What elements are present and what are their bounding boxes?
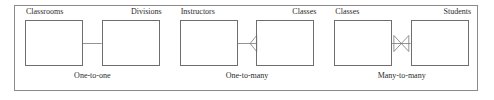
entity-label-left: Classes (335, 7, 359, 17)
connector-line-plain-crowsfoot (238, 20, 257, 66)
entity-label-left: Classrooms (26, 7, 63, 17)
entity-box-left (25, 20, 83, 66)
connector-one-to-one (83, 20, 102, 66)
connector-one-to-many (238, 20, 257, 66)
relationship-group-many-to-many: Classes Students (324, 6, 479, 92)
crows-foot-icon-left (394, 36, 401, 52)
entity-box-right (256, 20, 314, 66)
diagram-frame: Classrooms Divisions One-to-one Instruct… (14, 5, 478, 91)
connector-line-plain-plain (83, 20, 102, 66)
entity-box-right (102, 20, 160, 66)
connector-line-crowsfoot-crowsfoot (392, 20, 411, 66)
entity-label-right: Students (443, 7, 471, 17)
cardinality-caption: Many-to-many (324, 70, 479, 81)
er-cardinality-diagram: Classrooms Divisions One-to-one Instruct… (0, 0, 494, 100)
entity-label-right: Divisions (131, 7, 162, 17)
entity-box-left (334, 20, 392, 66)
cardinality-caption: One-to-many (170, 70, 325, 81)
relationship-group-one-to-many: Instructors Classes One- (170, 6, 325, 92)
entity-box-right (411, 20, 469, 66)
crows-foot-icon-right (402, 36, 409, 52)
cardinality-caption: One-to-one (15, 70, 170, 81)
entity-box-left (180, 20, 238, 66)
crows-foot-icon-right (250, 36, 257, 52)
entity-label-left: Instructors (181, 7, 215, 17)
entity-label-right: Classes (292, 7, 316, 17)
relationship-group-list: Classrooms Divisions One-to-one Instruct… (15, 6, 479, 92)
relationship-group-one-to-one: Classrooms Divisions One-to-one (15, 6, 170, 92)
connector-many-to-many (392, 20, 411, 66)
